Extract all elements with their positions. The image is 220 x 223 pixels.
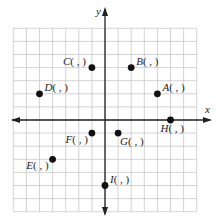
- point-label-f: F( , ): [65, 133, 89, 146]
- point-label-e: E( , ): [25, 159, 49, 172]
- point-label-a: A( , ): [161, 81, 185, 94]
- x-axis-arrow-left-icon: [11, 117, 20, 123]
- point-marker-icon: [36, 90, 43, 97]
- point-b: B( , ): [128, 55, 159, 71]
- point-g: G( , ): [115, 130, 144, 148]
- coordinate-plane-diagram: x y A( , )B( , )C( , )D( , )E( , )F( , )…: [0, 0, 220, 223]
- x-axis-arrow-right-icon: [203, 117, 212, 123]
- point-label-c: C( , ): [63, 55, 86, 68]
- coordinate-plane: x y A( , )B( , )C( , )D( , )E( , )F( , )…: [0, 0, 220, 223]
- point-e: E( , ): [25, 156, 56, 172]
- x-axis-label: x: [204, 103, 210, 115]
- point-marker-icon: [154, 90, 161, 97]
- point-label-i: I( , ): [109, 173, 130, 186]
- point-marker-icon: [49, 156, 56, 163]
- point-marker-icon: [89, 64, 96, 71]
- point-a: A( , ): [154, 81, 185, 97]
- point-i: I( , ): [102, 173, 130, 189]
- point-label-g: G( , ): [120, 135, 144, 148]
- point-marker-icon: [89, 130, 96, 137]
- point-label-h: H( , ): [160, 122, 185, 135]
- y-axis-label: y: [95, 5, 101, 17]
- point-label-d: D( , ): [44, 81, 69, 94]
- y-axis-arrow-up-icon: [102, 7, 108, 16]
- point-marker-icon: [102, 182, 109, 189]
- point-marker-icon: [128, 64, 135, 71]
- point-label-b: B( , ): [136, 55, 159, 68]
- point-f: F( , ): [65, 130, 96, 146]
